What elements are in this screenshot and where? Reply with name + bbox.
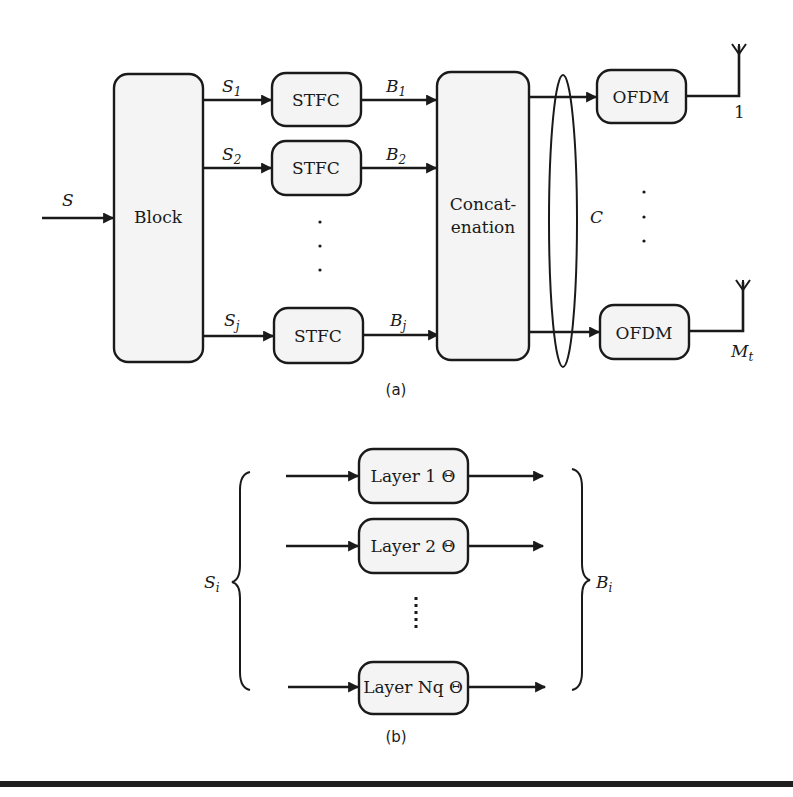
grouping-ellipse (549, 75, 577, 367)
branch-2-input-label: S2 (222, 144, 241, 167)
branch-1-output-label: B1 (385, 76, 406, 99)
diagram-b: Si Bi Layer 1 Θ Layer 2 Θ Layer Nq Θ (b) (204, 449, 613, 746)
stfc-label-j: STFC (294, 326, 342, 346)
branch-j-input-label: Sj (224, 310, 240, 333)
left-brace (232, 472, 250, 690)
layer-1-label: Layer 1 Θ (371, 466, 456, 486)
antenna-mt-label: Mt (730, 341, 753, 364)
ellipse-label: C (590, 207, 603, 227)
input-label: S (62, 190, 74, 210)
concatenation-label-line2: enation (451, 217, 516, 237)
stfc-ellipsis (318, 220, 321, 271)
ofdm-label-1: OFDM (613, 87, 670, 107)
layer-2-label: Layer 2 Θ (371, 536, 456, 556)
antenna-mt-feed (689, 282, 743, 331)
branch-j-output-label: Bj (389, 310, 407, 333)
caption-a: (a) (386, 381, 407, 399)
bottom-rule (0, 781, 793, 787)
caption-b: (b) (385, 728, 406, 746)
antenna-icon-mt (736, 280, 750, 290)
branch-1-input-label: S1 (222, 76, 241, 99)
concatenation-label-line1: Concat- (450, 194, 516, 214)
layer-nq-label: Layer Nq Θ (363, 677, 463, 697)
left-label: Si (204, 572, 220, 595)
diagram-canvas: S Block S1 STFC B1 S2 STFC B2 Sj STFC Bj (0, 0, 793, 797)
right-label: Bi (595, 572, 613, 595)
stfc-label-1: STFC (292, 90, 340, 110)
ofdm-ellipsis (642, 190, 645, 242)
antenna-1-feed (686, 46, 739, 96)
ofdm-label-mt: OFDM (616, 323, 673, 343)
branch-2-output-label: B2 (385, 144, 406, 167)
diagram-a: S Block S1 STFC B1 S2 STFC B2 Sj STFC Bj (42, 44, 753, 399)
stfc-label-2: STFC (292, 158, 340, 178)
antenna-1-label: 1 (734, 102, 745, 122)
concatenation-box (437, 72, 529, 360)
right-brace (572, 469, 590, 690)
block-label: Block (134, 207, 183, 227)
antenna-icon-1 (732, 44, 746, 54)
